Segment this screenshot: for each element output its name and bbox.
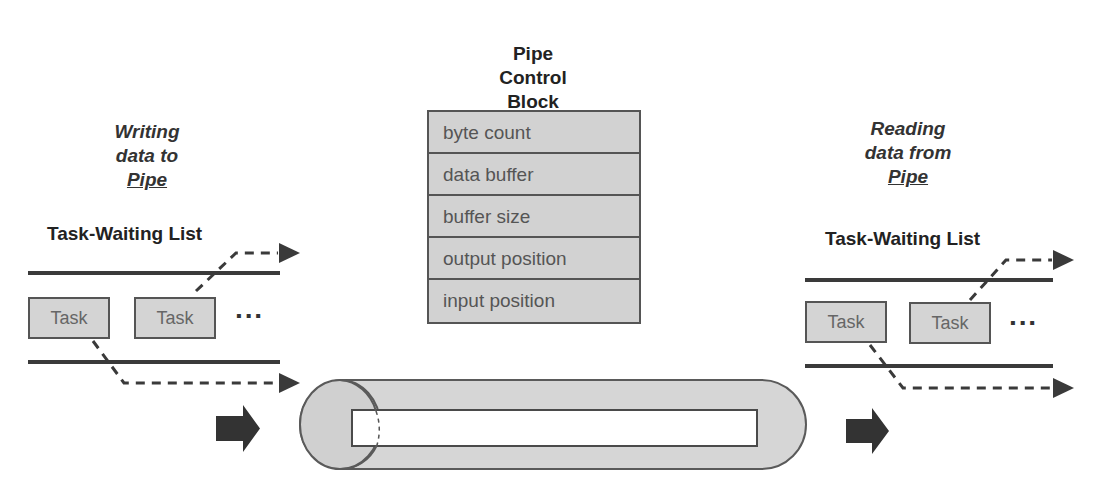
reader-ellipsis: ▪▪▪ bbox=[1010, 313, 1039, 333]
reader-list-title: Task-Waiting List bbox=[825, 228, 980, 250]
writer-caption-line-1: Writing bbox=[87, 120, 207, 144]
arrowhead-icon bbox=[1053, 250, 1074, 270]
input-flow-arrow-icon bbox=[216, 405, 260, 452]
pcb-title: Pipe Control Block bbox=[470, 42, 596, 114]
writer-task-2: Task bbox=[134, 297, 216, 339]
output-flow-arrow-icon bbox=[846, 408, 889, 454]
pipe bbox=[300, 380, 806, 469]
writer-caption: Writing data to Pipe bbox=[87, 120, 207, 192]
arrowhead-icon bbox=[1053, 378, 1074, 398]
pcb-field-input-position: input position bbox=[429, 280, 639, 322]
writer-caption-line-2: data to bbox=[87, 144, 207, 168]
reader-task-2: Task bbox=[909, 302, 991, 344]
reader-caption-line-2: data from bbox=[848, 141, 968, 165]
reader-caption: Reading data from Pipe bbox=[848, 117, 968, 189]
writer-caption-pipe: Pipe bbox=[87, 168, 207, 192]
pcb-title-line-2: Control bbox=[470, 66, 596, 90]
pcb-field-output-position: output position bbox=[429, 238, 639, 280]
writer-ellipsis: ▪▪▪ bbox=[236, 306, 265, 326]
pcb-field-byte-count: byte count bbox=[429, 112, 639, 154]
writer-task-1: Task bbox=[28, 297, 110, 339]
pcb-title-line-1: Pipe bbox=[470, 42, 596, 66]
pcb-field-buffer-size: buffer size bbox=[429, 196, 639, 238]
writer-list-title: Task-Waiting List bbox=[47, 223, 202, 245]
pipe-buffer bbox=[352, 410, 757, 446]
reader-task-1: Task bbox=[805, 301, 887, 343]
reader-caption-pipe: Pipe bbox=[848, 165, 968, 189]
arrowhead-icon bbox=[279, 243, 300, 263]
reader-caption-line-1: Reading bbox=[848, 117, 968, 141]
arrowhead-icon bbox=[279, 373, 300, 393]
pipe-control-block: byte count data buffer buffer size outpu… bbox=[427, 110, 641, 324]
pcb-field-data-buffer: data buffer bbox=[429, 154, 639, 196]
